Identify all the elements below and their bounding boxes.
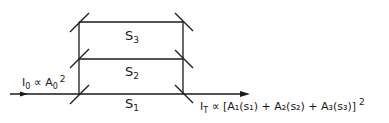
output-arrow-icon [240,91,250,97]
output-intensity-label: IT ∝ [A₁(s₁) + A₂(s₂) + A₃(s₃)]2 [200,97,365,115]
input-arrow-icon [20,92,28,97]
interferometer-diagram: S3 S2 S1 I0 ∝ A02 IT ∝ [A₁(s₁) + A₂(s₂) … [0,0,389,123]
label-s1: S1 [125,96,139,113]
input-intensity-label: I0 ∝ A02 [22,74,66,91]
label-s3: S3 [125,28,139,45]
label-s2: S2 [125,64,139,81]
